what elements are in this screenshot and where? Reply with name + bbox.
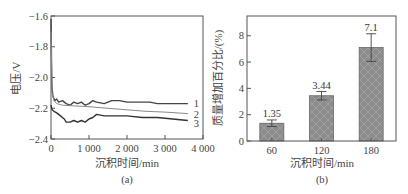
line-series-group xyxy=(51,19,188,122)
x-tick-label: 120 xyxy=(314,145,330,156)
x-axis-label-a: 沉积时间/min xyxy=(95,157,160,169)
bar-group: 1.353.447.1 xyxy=(260,22,383,141)
x-tick-label: 3 000 xyxy=(153,143,177,154)
y-tick-label: 8 xyxy=(239,30,244,41)
y-tick-label: 2 xyxy=(239,109,244,120)
x-tick-label: 1 000 xyxy=(77,143,101,154)
y-axis-b: 02468 xyxy=(239,30,251,146)
figure: −2.4−2.2−2.0−1.8−1.6 01 0002 0003 0004 0… xyxy=(0,0,408,194)
x-tick-label: 2 000 xyxy=(115,143,139,154)
x-tick-label: 60 xyxy=(267,145,278,156)
y-tick-label: 6 xyxy=(239,57,244,68)
y-axis-label-b: 质量增加百分比/(%) xyxy=(211,29,225,126)
bar-120 xyxy=(310,96,334,141)
y-axis-label-a: 电压/V xyxy=(10,61,22,94)
series-label-3: 3 xyxy=(194,118,199,129)
y-tick-label: −1.8 xyxy=(29,41,48,52)
line-series-1 xyxy=(51,19,188,105)
x-axis-a: 01 0002 0003 0004 000 xyxy=(48,135,214,154)
mass-increase-bar-chart: 1.353.447.1 02468 60120180 质量增加百分比/(%) 沉… xyxy=(211,16,396,186)
value-label: 3.44 xyxy=(312,80,331,91)
panel-label-b: (b) xyxy=(316,174,329,186)
x-axis-label-b: 沉积时间/min xyxy=(290,157,355,169)
voltage-line-chart: −2.4−2.2−2.0−1.8−1.6 01 0002 0003 0004 0… xyxy=(10,11,215,187)
y-tick-label: −2.4 xyxy=(29,134,49,145)
y-tick-label: 4 xyxy=(239,83,245,94)
x-tick-label: 4 000 xyxy=(191,143,215,154)
y-tick-label: −1.6 xyxy=(29,11,48,22)
y-tick-label: 0 xyxy=(239,136,244,147)
panel-label-a: (a) xyxy=(121,174,133,186)
line-series-3 xyxy=(51,105,188,122)
x-tick-label: 0 xyxy=(48,143,53,154)
x-tick-label: 180 xyxy=(363,145,379,156)
y-tick-label: −2.0 xyxy=(29,72,48,83)
value-label: 7.1 xyxy=(365,22,378,33)
value-label: 1.35 xyxy=(263,108,281,119)
series-label-1: 1 xyxy=(194,98,199,109)
y-tick-label: −2.2 xyxy=(29,103,48,114)
series-labels: 123 xyxy=(194,98,199,129)
